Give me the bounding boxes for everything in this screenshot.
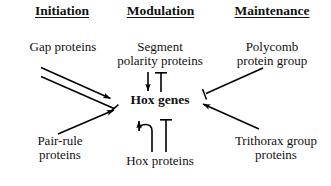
edge-polycomb-inhibits-hox [203, 68, 264, 100]
edge-hox-proteins-activates-hox-genes [139, 121, 152, 152]
node-pair-rule-proteins: Pair-rule proteins [8, 134, 112, 162]
node-trithorax-group-proteins: Trithorax group proteins [222, 134, 330, 162]
node-segment-polarity-proteins: Segment polarity proteins [101, 40, 219, 68]
edge-pair-rule-activates-hox [58, 110, 114, 134]
hox-gene-regulation-diagram: Initiation Modulation Maintenance Gap pr… [0, 0, 331, 186]
edge-segment-polarity-inhibits-hox [155, 72, 167, 92]
edge-gap-activates-hox [41, 68, 111, 99]
edge-trithorax-activates-hox [203, 104, 259, 129]
node-hox-genes: Hox genes [110, 93, 210, 108]
node-hox-proteins: Hox proteins [110, 154, 210, 168]
edge-gap-inhibits-hox [41, 77, 118, 113]
edge-hox-genes-to-hox-proteins [160, 119, 172, 152]
column-header-initiation: Initiation [10, 4, 114, 19]
column-header-modulation: Modulation [103, 4, 218, 19]
node-polycomb-protein-group: Polycomb protein group [216, 40, 328, 68]
column-header-maintenance: Maintenance [216, 4, 328, 19]
